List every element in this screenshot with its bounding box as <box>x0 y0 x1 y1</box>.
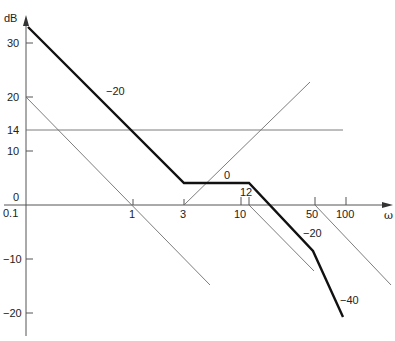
y-axis-arrow-icon <box>23 15 29 26</box>
y-axis: dB 30 20 14 10 0 −10 −20 <box>3 12 33 336</box>
y-tick-label-minus20: −20 <box>3 307 22 319</box>
y-tick-label-14: 14 <box>7 124 19 136</box>
x-tick-label-50: 50 <box>306 208 318 220</box>
y-axis-label: dB <box>4 12 17 24</box>
y-tick-label-0: 0 <box>13 191 19 203</box>
x-tick-label-1: 1 <box>129 208 135 220</box>
y-tick-label-minus10: −10 <box>3 253 22 265</box>
composite-magnitude-curve <box>28 27 343 317</box>
y-tick-label-10: 10 <box>7 145 19 157</box>
x-tick-label-10: 10 <box>234 208 246 220</box>
slope-label-minus20-b: −20 <box>303 227 322 239</box>
x-tick-label-0.1: 0.1 <box>3 207 18 219</box>
x-tick-label-100: 100 <box>336 208 354 220</box>
x-axis-arrow-icon <box>382 202 393 208</box>
integrator-line <box>26 97 210 285</box>
y-tick-label-30: 30 <box>7 37 19 49</box>
slope-label-minus40: −40 <box>340 294 359 306</box>
slope-label-0: 0 <box>224 169 230 181</box>
x-tick-label-12: 12 <box>240 186 252 198</box>
slope-labels: −20 0 −20 −40 <box>106 85 359 306</box>
y-tick-label-20: 20 <box>7 91 19 103</box>
bode-plot: dB 30 20 14 10 0 −10 −20 ω 0.1 1 3 10 12… <box>0 0 395 341</box>
x-axis-label: ω <box>384 209 393 222</box>
x-tick-label-3: 3 <box>180 208 186 220</box>
slope-label-minus20-a: −20 <box>106 85 125 97</box>
